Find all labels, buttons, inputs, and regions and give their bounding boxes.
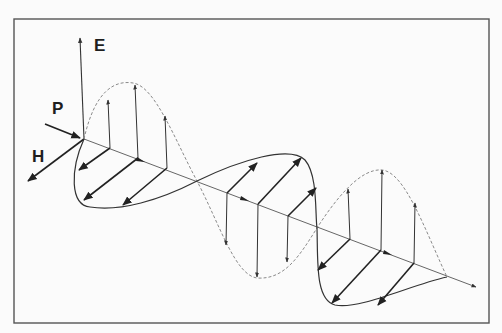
label-h: H [32,148,44,165]
p-arrow [45,124,80,138]
label-e: E [94,37,105,54]
e-axis [80,38,84,139]
diagram-frame [14,19,489,323]
diagram-canvas: E P H [0,0,502,333]
label-p: P [52,100,63,117]
h-field-vectors [79,148,414,305]
axis-arrow-2 [240,196,249,201]
em-wave-diagram [0,0,502,333]
axis-arrow-3 [383,250,392,255]
e-field-vectors [108,85,415,277]
e-wave-curve [84,83,447,279]
